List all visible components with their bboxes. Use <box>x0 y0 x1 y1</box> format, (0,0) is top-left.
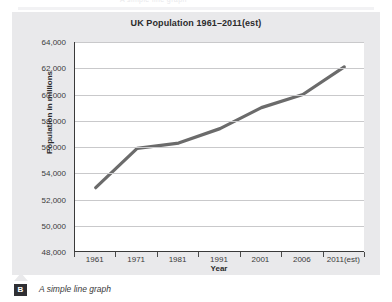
x-axis-title: Year <box>74 264 364 273</box>
y-axis-tick-label: 62,000 <box>42 64 66 73</box>
caption-label: A simple line graph <box>39 284 111 294</box>
y-axis-tick-labels: 64,00062,00060,00058,00056,00054,00052,0… <box>12 42 70 252</box>
x-axis-tick-mark <box>364 252 365 257</box>
x-axis-tick-label: 1981 <box>169 255 187 264</box>
x-axis-tick-label: 1961 <box>86 255 104 264</box>
gridline <box>75 173 364 174</box>
figure-panel: UK Population 1961–2011(est) Population … <box>12 12 380 275</box>
gridline <box>75 68 364 69</box>
bleed-text: A simple line graph <box>120 0 187 3</box>
y-axis-tick-label: 48,000 <box>42 248 66 257</box>
gridline <box>75 147 364 148</box>
plot-area <box>74 42 364 252</box>
x-axis-tick-label: 2001 <box>252 255 270 264</box>
gridline <box>75 95 364 96</box>
bleed-rule <box>18 7 374 10</box>
y-axis-tick-label: 52,000 <box>42 195 66 204</box>
x-axis-tick-label: 1971 <box>127 255 145 264</box>
y-axis-tick-label: 56,000 <box>42 143 66 152</box>
y-axis-tick-label: 50,000 <box>42 221 66 230</box>
page-top-bleed: A simple line graph <box>0 0 392 12</box>
x-axis-tick-label: 2011(est) <box>327 255 360 264</box>
caption-badge: B <box>14 284 27 296</box>
gridline <box>75 226 364 227</box>
chart-title: UK Population 1961–2011(est) <box>12 18 380 28</box>
gridline <box>75 200 364 201</box>
caption-caret-icon <box>14 273 28 281</box>
y-axis-tick-label: 64,000 <box>42 38 66 47</box>
gridline <box>75 42 364 43</box>
y-axis-tick-label: 58,000 <box>42 116 66 125</box>
x-axis-tick-label: 2006 <box>293 255 311 264</box>
x-axis-tick-label: 1991 <box>210 255 228 264</box>
figure-caption: B A simple line graph <box>12 282 380 298</box>
gridline <box>75 121 364 122</box>
y-axis-tick-label: 54,000 <box>42 169 66 178</box>
y-axis-tick-label: 60,000 <box>42 90 66 99</box>
